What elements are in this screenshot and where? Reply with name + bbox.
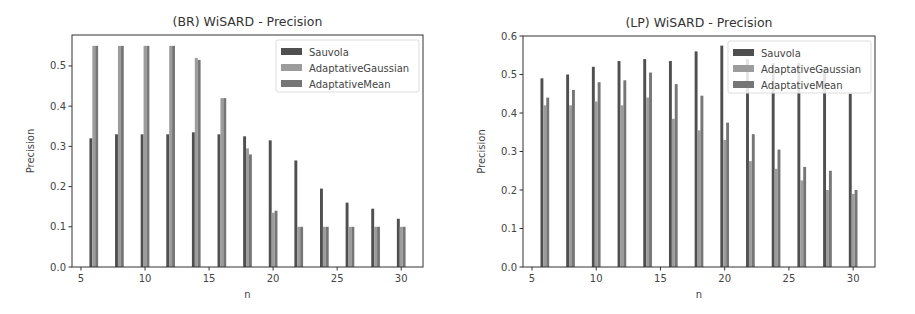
bar (546, 98, 549, 267)
legend: SauvolaAdaptativeGaussianAdaptativeMean (728, 41, 871, 93)
bar (95, 46, 98, 267)
y-axis-label: Precision (25, 129, 36, 174)
x-axis-label: n (244, 289, 250, 300)
bar (829, 171, 832, 267)
bar (672, 119, 675, 267)
bar (294, 160, 297, 267)
bar (166, 134, 169, 267)
legend-label: AdaptativeMean (309, 79, 391, 90)
bar (849, 94, 852, 267)
series-adaptativegaussian (543, 98, 854, 267)
bar (726, 123, 729, 267)
legend: SauvolaAdaptativeGaussianAdaptativeMean (276, 40, 419, 92)
bar (643, 59, 646, 267)
y-tick-label: 0.1 (50, 221, 66, 232)
bar (246, 148, 249, 267)
bar (772, 63, 775, 267)
bar (146, 46, 149, 267)
x-tick-label: 15 (654, 273, 667, 284)
x-tick-label: 5 (529, 273, 535, 284)
x-tick-label: 10 (590, 273, 603, 284)
bar (374, 227, 377, 267)
bar (669, 61, 672, 267)
x-tick-label: 20 (718, 273, 731, 284)
bar (797, 63, 800, 267)
y-tick-label: 0.5 (50, 60, 66, 71)
bar (572, 90, 575, 267)
bar (89, 138, 92, 267)
y-tick-label: 0.0 (50, 262, 66, 273)
bar (272, 213, 275, 267)
chart-br-svg: (BR) WiSARD - Precision0.00.10.20.30.40.… (0, 0, 458, 314)
x-tick-label: 30 (395, 273, 408, 284)
legend-swatch (733, 81, 754, 88)
bar (326, 227, 329, 267)
x-tick-label: 25 (331, 273, 344, 284)
bar (218, 134, 221, 267)
bar (223, 98, 226, 267)
bar (646, 98, 649, 267)
bar (297, 227, 300, 267)
bar (852, 194, 855, 267)
bar (695, 51, 698, 267)
legend-swatch (281, 48, 302, 55)
bar (144, 46, 147, 267)
bar (349, 227, 352, 267)
bar (569, 105, 572, 267)
bar (198, 60, 201, 267)
legend-swatch (281, 80, 302, 87)
bar (775, 169, 778, 267)
x-tick-label: 10 (139, 273, 152, 284)
bar (243, 136, 246, 267)
bar (800, 180, 803, 267)
bar (749, 161, 752, 267)
bar (723, 140, 726, 267)
legend-label: AdaptativeGaussian (761, 64, 861, 75)
bar (598, 82, 601, 267)
legend-swatch (281, 64, 302, 71)
legend-label: Sauvola (309, 47, 349, 58)
bar (220, 98, 223, 267)
bar (698, 130, 701, 267)
y-tick-label: 0.1 (501, 223, 517, 234)
y-tick-label: 0.5 (501, 69, 517, 80)
chart-title: (LP) WiSARD - Precision (625, 15, 772, 30)
bar (351, 227, 354, 267)
bar (618, 61, 621, 267)
bar (169, 46, 172, 267)
x-tick-label: 20 (267, 273, 280, 284)
bar (320, 189, 323, 267)
bar (371, 209, 374, 267)
legend-label: AdaptativeGaussian (309, 63, 409, 74)
bar (566, 75, 569, 268)
bar (823, 67, 826, 267)
y-axis-label: Precision (476, 129, 487, 174)
bar (195, 58, 198, 267)
bar (403, 227, 406, 267)
bar (172, 46, 175, 267)
bar (141, 134, 144, 267)
bar (540, 78, 543, 267)
x-tick-label: 25 (783, 273, 796, 284)
chart-br-precision: (BR) WiSARD - Precision0.00.10.20.30.40.… (0, 0, 458, 314)
chart-title: (BR) WiSARD - Precision (173, 14, 323, 29)
bar (115, 134, 118, 267)
bar (826, 190, 829, 267)
y-tick-label: 0.4 (501, 108, 517, 119)
legend-label: AdaptativeMean (761, 80, 843, 91)
bar (649, 73, 652, 267)
y-tick-label: 0.0 (501, 262, 517, 273)
legend-swatch (733, 49, 754, 56)
x-axis-label: n (696, 289, 702, 300)
bar (192, 132, 195, 267)
x-tick-label: 5 (78, 273, 84, 284)
y-tick-label: 0.2 (50, 181, 66, 192)
y-tick-label: 0.3 (501, 146, 517, 157)
chart-lp-precision: (LP) WiSARD - Precision0.00.10.20.30.40.… (455, 0, 915, 314)
bar (720, 46, 723, 267)
bar (778, 150, 781, 267)
y-tick-label: 0.3 (50, 141, 66, 152)
bar (855, 190, 858, 267)
bar (752, 134, 755, 267)
bar (346, 203, 349, 267)
